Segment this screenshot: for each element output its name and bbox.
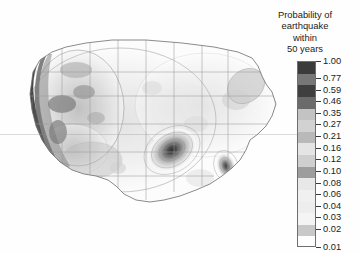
tick-mark <box>316 124 321 125</box>
contour-utah <box>87 112 105 124</box>
tick-label: 0.01 <box>323 242 341 253</box>
tick-label: 0.35 <box>323 108 341 119</box>
colorbar-tick-0.01: 0.01 <box>316 242 341 253</box>
colorbar-band-0.46 <box>298 97 315 109</box>
colorbar-tick-0.02: 0.02 <box>316 224 341 235</box>
colorbar-band-0.02 <box>298 225 315 237</box>
colorbar-band-0.35 <box>298 109 315 121</box>
tick-label: 0.04 <box>323 201 341 212</box>
tick-label: 0.08 <box>323 178 341 189</box>
colorbar-ticks: 1.000.770.590.460.350.270.210.160.120.10… <box>316 56 361 252</box>
colorbar-tick-0.21: 0.21 <box>316 131 341 142</box>
tick-mark <box>316 159 321 160</box>
colorbar-tick-0.27: 0.27 <box>316 119 341 130</box>
colorbar-band-0.12 <box>298 155 315 167</box>
tick-label: 1.00 <box>323 56 341 67</box>
tick-label: 0.02 <box>323 224 341 235</box>
colorbar-tick-0.04: 0.04 <box>316 201 341 212</box>
colorbar-band-0.77 <box>298 74 315 86</box>
legend-title-line-2: earthquake <box>252 20 358 31</box>
tick-label: 0.21 <box>323 131 341 142</box>
colorbar-bands <box>297 61 316 247</box>
tick-label: 0.59 <box>323 85 341 96</box>
tick-mark <box>316 171 321 172</box>
colorbar-band-0.08 <box>298 178 315 190</box>
tick-label: 0.06 <box>323 189 341 200</box>
tick-label: 0.12 <box>323 154 341 165</box>
colorbar-tick-0.06: 0.06 <box>316 189 341 200</box>
tick-mark <box>316 247 321 248</box>
colorbar-band-0.10 <box>298 167 315 179</box>
legend-title: Probability of earthquake within 50 year… <box>252 9 358 55</box>
colorbar-tick-0.08: 0.08 <box>316 178 341 189</box>
colorbar-tick-0.77: 0.77 <box>316 73 341 84</box>
colorbar-band-0.59 <box>298 85 315 97</box>
colorbar-band-0.27 <box>298 120 315 132</box>
colorbar-band-0.16 <box>298 143 315 155</box>
colorbar-tick-0.59: 0.59 <box>316 85 341 96</box>
tick-mark <box>316 113 321 114</box>
legend-title-line-3: within <box>252 32 358 43</box>
contour-appalachian <box>222 90 250 110</box>
tick-mark <box>316 136 321 137</box>
contour-upper-midwest <box>142 81 162 95</box>
tick-mark <box>316 183 321 184</box>
colorbar-band-0.04 <box>298 202 315 214</box>
tick-label: 0.10 <box>323 166 341 177</box>
contour-wasatch <box>73 85 95 99</box>
tick-label: 0.03 <box>323 212 341 223</box>
tick-mark <box>316 101 321 102</box>
earthquake-probability-map-figure: Probability of earthquake within 50 year… <box>0 0 361 253</box>
colorbar-tick-0.03: 0.03 <box>316 212 341 223</box>
colorbar-tick-0.35: 0.35 <box>316 108 341 119</box>
tick-mark <box>316 61 321 62</box>
colorbar-tick-0.16: 0.16 <box>316 143 341 154</box>
tick-mark <box>316 90 321 91</box>
tick-mark <box>316 194 321 195</box>
colorbar-tick-1.00: 1.00 <box>316 56 341 67</box>
colorbar-band-1.00 <box>298 62 315 74</box>
colorbar-band-0.06 <box>298 190 315 202</box>
tick-label: 0.16 <box>323 143 341 154</box>
colorbar-band-0.01 <box>298 236 315 247</box>
tick-mark <box>316 217 321 218</box>
contour-eastern-sierra <box>49 120 67 144</box>
legend-title-line-1: Probability of <box>252 9 358 20</box>
tick-mark <box>316 206 321 207</box>
tick-label: 0.46 <box>323 96 341 107</box>
colorbar-band-0.21 <box>298 132 315 144</box>
contour-yellowstone <box>60 62 92 78</box>
tick-label: 0.27 <box>323 119 341 130</box>
colorbar-tick-0.12: 0.12 <box>316 154 341 165</box>
tick-mark <box>316 229 321 230</box>
scan-line-artifact <box>0 134 300 135</box>
colorbar-tick-0.46: 0.46 <box>316 96 341 107</box>
tick-mark <box>316 148 321 149</box>
legend-title-line-4: 50 years <box>252 43 358 54</box>
tick-label: 0.77 <box>323 73 341 84</box>
tick-mark <box>316 78 321 79</box>
colorbar <box>297 61 316 247</box>
colorbar-band-0.03 <box>298 213 315 225</box>
colorbar-tick-0.10: 0.10 <box>316 166 341 177</box>
